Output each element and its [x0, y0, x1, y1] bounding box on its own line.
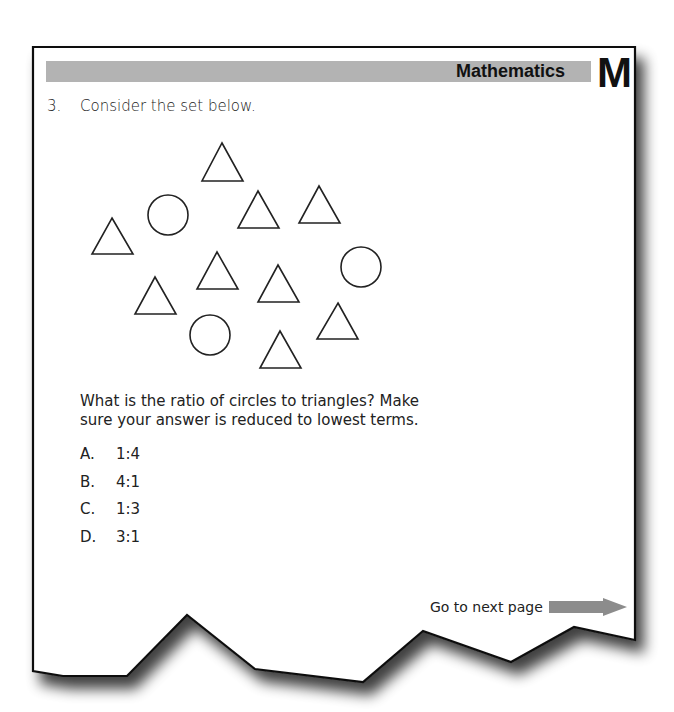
subject-letter-badge: M — [597, 52, 631, 94]
subject-header-bar: Mathematics — [46, 61, 591, 82]
answer-option-a[interactable]: A. 1:4 — [80, 444, 140, 464]
question-intro: Consider the set below. — [80, 96, 256, 116]
question-prompt: What is the ratio of circles to triangle… — [80, 392, 440, 430]
go-to-next-page-link[interactable]: Go to next page — [430, 598, 627, 616]
next-page-label: Go to next page — [430, 598, 543, 616]
answer-option-b[interactable]: B. 4:1 — [80, 472, 140, 492]
option-value: 1:3 — [116, 499, 140, 519]
arrow-right-icon — [547, 598, 627, 616]
question-number: 3. — [47, 96, 61, 116]
option-letter: A. — [80, 444, 116, 464]
answer-option-c[interactable]: C. 1:3 — [80, 499, 140, 519]
option-letter: B. — [80, 472, 116, 492]
option-value: 3:1 — [116, 527, 140, 547]
answer-option-d[interactable]: D. 3:1 — [80, 527, 140, 547]
torn-page-outline — [33, 47, 635, 682]
option-letter: C. — [80, 499, 116, 519]
option-value: 4:1 — [116, 472, 140, 492]
option-value: 1:4 — [116, 444, 140, 464]
option-letter: D. — [80, 527, 116, 547]
subject-title: Mathematics — [456, 61, 565, 82]
